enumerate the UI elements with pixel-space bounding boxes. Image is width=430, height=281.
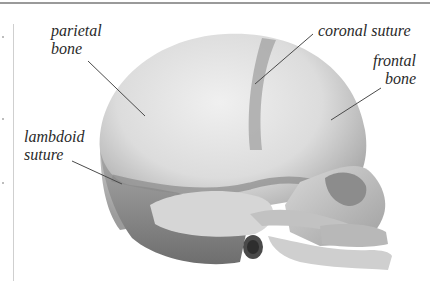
- label-lambdoid-suture: lambdoid suture: [24, 128, 84, 164]
- label-frontal-bone: frontal bone: [373, 52, 416, 88]
- label-line: bone: [51, 40, 102, 58]
- label-line: parietal: [51, 22, 102, 40]
- label-parietal-bone: parietal bone: [51, 22, 102, 58]
- label-line: bone: [373, 70, 416, 88]
- label-line: lambdoid: [24, 128, 84, 146]
- label-line: frontal: [373, 52, 416, 70]
- label-coronal-suture: coronal suture: [318, 22, 411, 40]
- label-line: coronal suture: [318, 22, 411, 40]
- maxilla: [320, 224, 388, 247]
- label-line: suture: [24, 146, 84, 164]
